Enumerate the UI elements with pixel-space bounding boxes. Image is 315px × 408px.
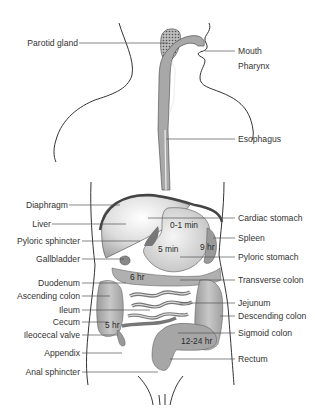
label-esophagus: Esophagus [238,134,281,144]
label-pyloric-stomach: Pyloric stomach [238,252,299,262]
time-sigmoid-colon: 12-24 hr [181,336,212,346]
sigmoid-rectum-shape [152,323,217,370]
label-sigmoid-colon: Sigmoid colon [238,328,292,338]
label-pharynx: Pharynx [238,61,270,71]
label-mouth: Mouth [238,46,262,56]
label-descending-colon: Descending colon [238,311,306,321]
label-diaphragm: Diaphragm [26,200,68,210]
label-duodenum: Duodenum [38,278,80,288]
time-cardiac-stomach: 0-1 min [170,220,198,230]
label-ileocecal-valve: Ileocecal valve [24,330,80,340]
label-parotid-gland: Parotid gland [27,38,78,48]
label-ascending-colon: Ascending colon [17,291,80,301]
time-duodenum: 6 hr [130,272,144,282]
appendix-shape [117,330,125,346]
label-spleen: Spleen [238,233,265,243]
time-pyloric-stomach: 9 hr [200,242,214,252]
label-ileum: Ileum [59,305,80,315]
label-transverse-colon: Transverse colon [238,275,304,285]
small-intestine-shape [122,292,192,326]
label-cecum: Cecum [53,317,80,327]
label-appendix: Appendix [44,348,80,358]
label-rectum: Rectum [238,354,268,364]
label-jejunum: Jejunum [238,298,270,308]
time-stomach: 5 min [158,244,178,254]
label-anal-sphincter: Anal sphincter [26,367,80,377]
label-gallbladder: Gallbladder [36,254,80,264]
esophagus-shape [158,36,204,190]
label-cardiac-stomach: Cardiac stomach [238,213,302,223]
gallbladder-shape [120,256,130,265]
time-cecum: 5 hr [105,320,119,330]
label-pyloric-sphincter: Pyloric sphincter [17,236,80,246]
label-liver: Liver [32,219,51,229]
